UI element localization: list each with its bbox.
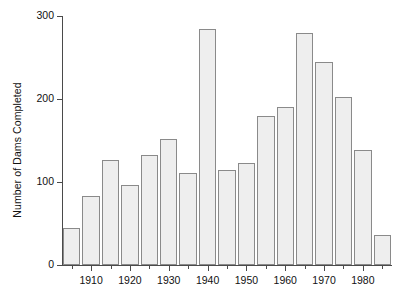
bar (218, 170, 235, 265)
x-tick-mark-minor (111, 266, 112, 269)
bar (335, 97, 352, 265)
x-tick-mark (246, 266, 247, 271)
x-tick-mark-minor (72, 266, 73, 269)
x-tick-label: 1960 (274, 274, 297, 286)
x-tick-mark-minor (266, 266, 267, 269)
x-tick-mark-minor (188, 266, 189, 269)
bar (354, 150, 371, 265)
bar (257, 116, 274, 265)
bar (315, 62, 332, 265)
x-tick-mark-minor (227, 266, 228, 269)
bar (296, 33, 313, 265)
x-tick-mark (363, 266, 364, 271)
x-tick-mark (130, 266, 131, 271)
y-tick-mark (57, 265, 62, 266)
bar (277, 107, 294, 265)
bar (102, 160, 119, 265)
x-tick-mark (169, 266, 170, 271)
x-tick-mark-minor (149, 266, 150, 269)
bar (121, 185, 138, 266)
bar (179, 173, 196, 265)
x-tick-mark (285, 266, 286, 271)
x-tick-label: 1910 (79, 274, 102, 286)
x-tick-mark (324, 266, 325, 271)
bar (238, 163, 255, 265)
x-tick-label: 1950 (235, 274, 258, 286)
y-axis-tick: 0 (0, 265, 62, 266)
bar (199, 29, 216, 265)
bars-group (0, 0, 406, 265)
x-tick-label: 1930 (157, 274, 180, 286)
bar (82, 196, 99, 265)
x-tick-mark (208, 266, 209, 271)
bar (63, 228, 80, 265)
x-tick-label: 1920 (118, 274, 141, 286)
x-tick-label: 1980 (351, 274, 374, 286)
x-tick-label: 1970 (312, 274, 335, 286)
x-tick-mark-minor (305, 266, 306, 269)
x-tick-label: 1940 (196, 274, 219, 286)
bar-chart: Number of Dams Completed 0100200300 1910… (0, 0, 406, 300)
bar (141, 155, 158, 265)
bar (374, 235, 391, 265)
x-tick-mark (91, 266, 92, 271)
x-tick-mark-minor (382, 266, 383, 269)
bar (160, 139, 177, 265)
x-tick-mark-minor (343, 266, 344, 269)
